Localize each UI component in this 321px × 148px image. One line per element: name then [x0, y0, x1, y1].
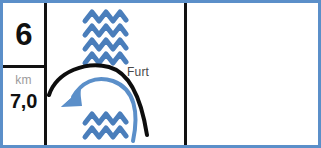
river-flow-arrowhead-fill-icon [61, 90, 82, 107]
notes-panel[interactable] [187, 3, 318, 145]
step-number: 6 [15, 19, 32, 50]
ford-pictogram-svg [47, 3, 184, 145]
water-waves-downstream-icon [85, 114, 126, 137]
distance-unit-label: km [15, 74, 32, 87]
water-waves-upstream-icon [85, 12, 126, 63]
step-info-column: 6 km 7,0 [3, 3, 44, 145]
step-number-cell: 6 [3, 3, 44, 65]
ford-label: Furt [127, 65, 149, 79]
left-column-divider [3, 65, 44, 68]
route-instruction-card: 6 km 7,0 [0, 0, 321, 148]
ford-pictogram: Furt [47, 3, 184, 145]
distance-cell: km 7,0 [3, 68, 44, 145]
distance-value: 7,0 [10, 90, 37, 112]
